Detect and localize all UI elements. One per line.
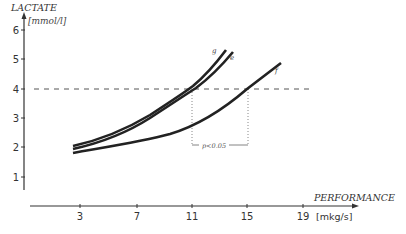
x-tick-label: 19 xyxy=(297,211,310,222)
y-tick-label: 4 xyxy=(13,84,19,95)
y-axis-unit: [mmol/l] xyxy=(28,16,67,26)
curve-label-f: f xyxy=(274,67,279,75)
x-axis-arrow-icon xyxy=(352,204,359,209)
curve-g xyxy=(73,50,226,146)
y-tick-label: 5 xyxy=(13,54,19,65)
y-axis-arrow-icon xyxy=(22,12,27,19)
y-tick-label: 1 xyxy=(13,172,19,183)
curve-e xyxy=(73,52,233,149)
significance-annotation: p<0.05 xyxy=(202,142,226,150)
y-axis-title: LACTATE xyxy=(10,2,57,13)
y-tick-label: 2 xyxy=(13,142,19,153)
curve-label-e: e xyxy=(230,54,234,62)
x-tick-label: 11 xyxy=(186,211,199,222)
x-tick-label: 7 xyxy=(134,211,140,222)
lactate-chart: 6 5 4 3 2 1 LACTATE [mmol/l] 3 7 11 15 1… xyxy=(0,0,406,234)
curve-label-g: g xyxy=(212,47,217,55)
y-tick-label: 3 xyxy=(13,113,19,124)
x-tick-label: 3 xyxy=(77,211,83,222)
x-tick-label: 15 xyxy=(241,211,254,222)
x-axis-unit: [mkg/s] xyxy=(316,211,352,222)
y-tick-label: 6 xyxy=(13,25,19,36)
x-axis-title: PERFORMANCE xyxy=(313,192,395,203)
